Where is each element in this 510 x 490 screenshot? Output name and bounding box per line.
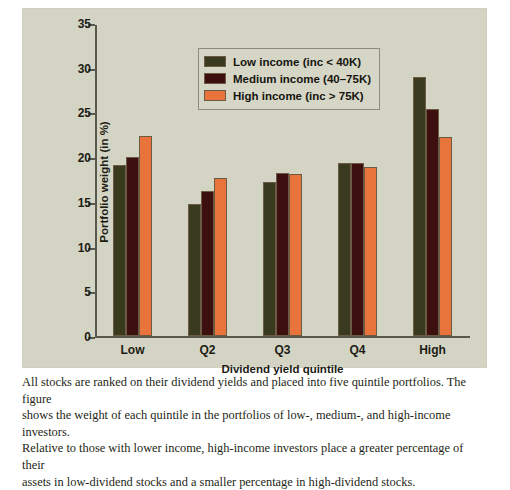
bar: [338, 163, 351, 336]
plot-area: 05101520253035 Portfolio weight (in %) L…: [95, 25, 470, 338]
legend-item: High income (inc > 75K): [204, 87, 371, 104]
y-tick-label: 0: [84, 330, 91, 344]
bar: [426, 109, 439, 336]
x-tick-label: Q4: [349, 343, 365, 357]
bar: [439, 137, 452, 336]
legend-label: Low income (inc < 40K): [233, 56, 361, 68]
y-tick-label: 15: [78, 196, 91, 210]
bar: [126, 157, 139, 336]
y-tick-label: 5: [84, 285, 91, 299]
chart-panel: 05101520253035 Portfolio weight (in %) L…: [22, 8, 487, 368]
bar: [188, 204, 201, 336]
caption-line-3: Relative to those with lower income, hig…: [22, 440, 488, 473]
x-axis-line: [95, 336, 470, 338]
bar-group: Low: [113, 25, 152, 336]
y-tick-label: 30: [78, 62, 91, 76]
bar: [139, 136, 152, 336]
legend-swatch: [204, 73, 226, 84]
bar: [113, 165, 126, 336]
x-tick-label: Q3: [274, 343, 290, 357]
bar: [413, 77, 426, 336]
figure-caption: All stocks are ranked on their dividend …: [22, 374, 488, 490]
bar: [351, 163, 364, 336]
legend-label: High income (inc > 75K): [233, 90, 364, 102]
legend-swatch: [204, 90, 226, 101]
legend-item: Low income (inc < 40K): [204, 53, 371, 70]
bar: [263, 182, 276, 336]
legend-swatch: [204, 56, 226, 67]
caption-line-2: shows the weight of each quintile in the…: [22, 407, 488, 440]
y-tick-label: 20: [78, 151, 91, 165]
bar: [364, 167, 377, 336]
chart-legend: Low income (inc < 40K)Medium income (40–…: [198, 48, 380, 110]
x-tick-label: Q2: [199, 343, 215, 357]
bar: [276, 173, 289, 336]
y-tick-label: 10: [78, 241, 91, 255]
x-tick-label: Low: [121, 343, 145, 357]
bar: [214, 178, 227, 336]
y-tick-label: 25: [78, 106, 91, 120]
caption-line-1: All stocks are ranked on their dividend …: [22, 374, 488, 407]
bar: [289, 174, 302, 336]
bar: [201, 191, 214, 336]
bar-group: High: [413, 25, 452, 336]
y-tick-label: 35: [78, 17, 91, 31]
legend-item: Medium income (40–75K): [204, 70, 371, 87]
legend-label: Medium income (40–75K): [233, 73, 371, 85]
caption-line-4: assets in low-dividend stocks and a smal…: [22, 474, 488, 490]
x-tick-label: High: [419, 343, 446, 357]
